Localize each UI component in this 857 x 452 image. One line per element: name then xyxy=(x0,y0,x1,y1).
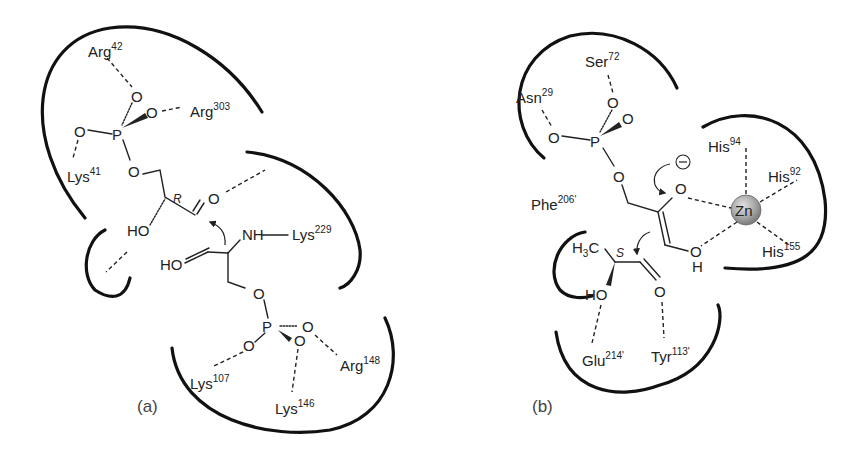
residue-his92: His92 xyxy=(768,166,801,185)
carbonyl-1 xyxy=(640,262,656,280)
pocket-arc-right xyxy=(247,152,360,288)
atom-o: O xyxy=(613,168,625,185)
atom-p: P xyxy=(590,133,600,150)
hbond-carbonyl xyxy=(226,170,265,192)
atom-p-lower: P xyxy=(262,318,272,335)
atom-o: O xyxy=(607,94,619,111)
bond-o-p xyxy=(88,130,112,134)
coord-oh-zn xyxy=(701,222,737,246)
curved-arrow-2 xyxy=(637,232,650,254)
residue-ser72: Ser72 xyxy=(585,51,620,70)
stereo-label-s: S xyxy=(616,246,624,260)
residue-phe206: Phe206' xyxy=(531,194,576,213)
chain-bond xyxy=(143,170,195,215)
residue-asn29: Asn29 xyxy=(516,87,553,106)
figure-root: Arg42 O O Arg303 O P Lys41 O R O HO NH L… xyxy=(0,0,857,452)
chain-bond xyxy=(622,185,672,212)
residue-lys107: Lys107 xyxy=(190,373,230,392)
pocket-arc-bottom xyxy=(556,305,720,392)
hbond-ser72 xyxy=(608,75,613,93)
hbond-arg42 xyxy=(107,58,132,87)
atom-o: O xyxy=(146,104,158,121)
atom-o-double: O xyxy=(622,110,634,127)
atom-ho: HO xyxy=(585,286,608,303)
bond-o-p xyxy=(562,136,590,140)
panel-label-a: (a) xyxy=(137,397,158,416)
carbonyl-bond-1 xyxy=(193,200,200,211)
hbond-lys41 xyxy=(73,140,78,158)
hbond-arg303 xyxy=(162,107,182,111)
bond-p-o xyxy=(603,148,614,166)
carbonyl-bond-2 xyxy=(197,203,204,214)
wedge-lower xyxy=(278,330,292,342)
curved-arrow xyxy=(210,222,225,245)
atom-h: H xyxy=(692,258,703,275)
hbond-asn29 xyxy=(542,110,552,127)
hbond-lys146 xyxy=(292,349,298,392)
stereo-label-r: R xyxy=(173,192,182,206)
panel-b: Zn Ser72 Asn29 O O O P O O His94 His92 H… xyxy=(516,33,826,416)
wedge-oh xyxy=(606,262,615,286)
carbonyl-2 xyxy=(644,259,660,277)
hbond-glu214 xyxy=(592,305,601,343)
bond-c-oh xyxy=(665,245,688,251)
atom-o-enolate: O xyxy=(675,180,687,197)
bond-ch3 xyxy=(605,249,615,262)
atom-o-aldehyde: O xyxy=(654,283,666,300)
enzyme-active-site-diagram: Arg42 O O Arg303 O P Lys41 O R O HO NH L… xyxy=(0,0,857,452)
residue-lys41: Lys41 xyxy=(67,166,101,185)
bond-p-o xyxy=(123,140,130,160)
residue-lys146: Lys146 xyxy=(275,398,315,417)
atom-o: O xyxy=(548,129,560,146)
hbond-lys107 xyxy=(212,352,243,367)
bond-c-c xyxy=(208,252,228,253)
atom-o: O xyxy=(243,337,255,354)
chain-bond-lower xyxy=(228,253,245,288)
wedge-bond xyxy=(600,122,622,136)
atom-o: O xyxy=(294,332,306,349)
residue-arg303: Arg303 xyxy=(190,101,230,120)
hbond-small-pocket xyxy=(106,252,127,272)
hashed-oh xyxy=(150,199,165,225)
panel-label-b: (b) xyxy=(532,397,553,416)
residue-his155: His155 xyxy=(762,241,801,260)
atom-o: O xyxy=(128,163,140,180)
atom-o: O xyxy=(74,123,86,140)
curved-arrow-1 xyxy=(654,164,670,193)
residue-tyr113: Tyr113' xyxy=(651,346,690,365)
zinc-label: Zn xyxy=(735,202,753,219)
atom-nh: NH xyxy=(242,226,264,243)
hbond-tyr113 xyxy=(662,302,664,338)
residue-arg148: Arg148 xyxy=(340,355,380,374)
panel-a: Arg42 O O Arg303 O P Lys41 O R O HO NH L… xyxy=(42,27,393,432)
hashed-bond xyxy=(122,103,132,125)
atom-o: O xyxy=(253,285,265,302)
residue-lys229: Lys229 xyxy=(292,224,332,243)
methyl-group: H3C xyxy=(572,239,599,259)
atom-ho: HO xyxy=(127,222,150,239)
residue-his94: His94 xyxy=(708,136,741,155)
bond-c-nh xyxy=(228,240,240,253)
residue-arg42: Arg42 xyxy=(88,41,123,60)
coord-o-zn xyxy=(688,198,731,208)
bond-o-p-lower xyxy=(264,300,268,318)
atom-ho-enol: HO xyxy=(160,256,183,273)
residue-glu214: Glu214' xyxy=(582,350,624,369)
atom-p: P xyxy=(112,126,122,143)
atom-o-carbonyl: O xyxy=(208,190,220,207)
pocket-arc-small-left xyxy=(86,230,130,296)
hbond-arg148 xyxy=(315,335,337,355)
atom-o: O xyxy=(131,88,143,105)
